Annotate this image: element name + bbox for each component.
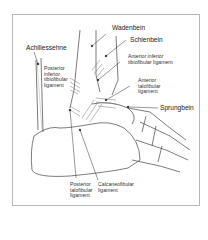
label-calcaneofibular-ligament: Calcaneofibular ligament [98, 182, 134, 193]
label-anterior-talofibular-ligament: Anterior talofibular ligament [138, 78, 161, 95]
label-schienbein: Schienbein [130, 36, 163, 43]
label-sprungbein: Sprungbein [160, 104, 194, 111]
label-posterior-inferior-tibiofibular-ligament: Posterior inferior tibiofibular ligament [44, 66, 68, 88]
label-achillessehne: Achillessehne [26, 44, 67, 51]
label-wadenbein: Wadenbein [112, 24, 145, 31]
label-anterior-inferior-tibiofibular-ligament: Anterior inferior tibiofibular ligament [128, 54, 173, 65]
label-posterior-talofibular-ligament: Posterior talofibular ligament [70, 182, 93, 199]
